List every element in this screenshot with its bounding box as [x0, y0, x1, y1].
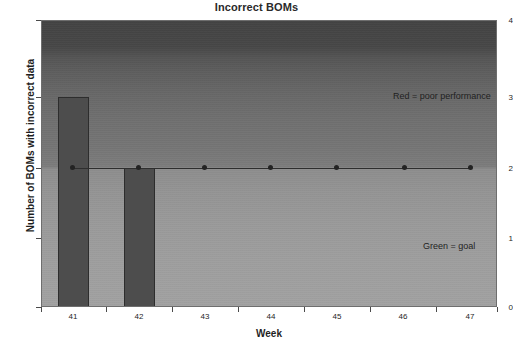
x-tick-label-43: 43	[185, 312, 225, 321]
goal-marker-week-44	[268, 165, 273, 170]
x-tick-mark-0	[41, 307, 42, 312]
chart-container: Incorrect BOMs Number of BOMs with incor…	[0, 0, 513, 350]
x-tick-label-42: 42	[119, 312, 159, 321]
x-tick-label-41: 41	[53, 312, 93, 321]
bar-week-42	[124, 168, 155, 307]
x-tick-mark-1	[106, 307, 107, 312]
x-tick-label-46: 46	[383, 312, 423, 321]
y-tick-label-1: 1	[495, 234, 513, 243]
plot-area: Red = poor performance Green = goal	[41, 20, 497, 307]
x-tick-mark-4	[304, 307, 305, 312]
annotation-red-zone: Red = poor performance	[393, 91, 491, 101]
x-tick-mark-6	[436, 307, 437, 312]
chart-title: Incorrect BOMs	[0, 1, 513, 13]
goal-marker-week-45	[334, 165, 339, 170]
x-tick-mark-5	[370, 307, 371, 312]
goal-marker-week-47	[468, 165, 473, 170]
bar-week-41	[58, 97, 89, 307]
goal-marker-week-46	[402, 165, 407, 170]
y-tick-label-2: 2	[495, 164, 513, 173]
x-tick-label-47: 47	[450, 312, 490, 321]
x-tick-label-44: 44	[251, 312, 291, 321]
annotation-green-zone: Green = goal	[423, 241, 475, 251]
goal-marker-week-41	[70, 165, 75, 170]
x-tick-mark-3	[238, 307, 239, 312]
x-tick-mark-2	[172, 307, 173, 312]
plot-texture-overlay	[42, 21, 496, 306]
y-axis-title: Number of BOMs with incorrect data	[25, 26, 36, 266]
goal-marker-week-43	[202, 165, 207, 170]
x-tick-label-45: 45	[317, 312, 357, 321]
y-tick-label-4: 4	[495, 16, 513, 25]
x-tick-mark-7	[497, 307, 498, 312]
y-tick-label-3: 3	[495, 93, 513, 102]
x-axis-title: Week	[41, 328, 497, 339]
goal-marker-week-42	[136, 165, 141, 170]
